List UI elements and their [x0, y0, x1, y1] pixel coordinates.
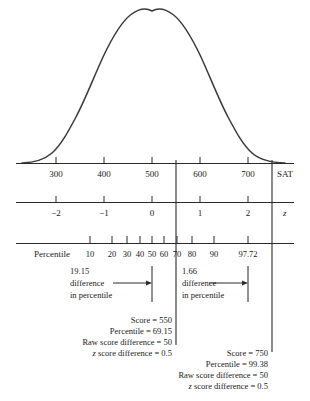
percentile-tick-label-80: 80	[188, 249, 197, 259]
percentile-tick-label-40: 40	[136, 249, 145, 259]
right-callout-raw-difference: Raw score difference = 50	[96, 370, 268, 381]
left-callout-raw-difference: Raw score difference = 50	[0, 337, 172, 348]
z-tick-label-neg2: −2	[51, 208, 61, 218]
percentile-axis-label: Percentile	[34, 249, 70, 259]
left-callout-score: Score = 550	[0, 315, 172, 326]
percentile-tick-label-97-72: 97.72	[238, 249, 257, 259]
right-callout-z-text: score difference = 0.5	[192, 381, 268, 391]
left-difference-value: 19.15	[70, 266, 89, 277]
z-tick-label-neg1: −1	[99, 208, 109, 218]
left-callout-percentile: Percentile = 69.15	[0, 326, 172, 337]
percentile-tick-label-10: 10	[86, 249, 95, 259]
sat-axis-ticks	[56, 157, 248, 164]
z-tick-label-2: 2	[246, 208, 251, 218]
percentile-tick-label-50: 50	[148, 249, 157, 259]
left-difference-unit: in percentile	[70, 290, 112, 301]
percentile-tick-label-60: 60	[160, 249, 169, 259]
sat-tick-label-600: 600	[193, 169, 207, 179]
right-callout-score: Score = 750	[96, 348, 268, 359]
right-callout-percentile: Percentile = 99.38	[96, 359, 268, 370]
percentile-tick-label-20: 20	[108, 249, 117, 259]
z-axis-ticks	[56, 196, 248, 203]
right-difference-word: difference	[182, 278, 216, 289]
right-difference-value: 1.66	[182, 266, 197, 277]
right-difference-unit: in percentile	[182, 290, 224, 301]
normal-curve	[22, 9, 285, 163]
z-tick-label-1: 1	[198, 208, 203, 218]
percentile-tick-label-30: 30	[123, 249, 132, 259]
percentile-axis-ticks	[90, 236, 248, 244]
sat-tick-label-700: 700	[241, 169, 255, 179]
percentile-tick-label-90: 90	[210, 249, 219, 259]
percentile-tick-label-70: 70	[173, 249, 182, 259]
sat-axis-label: SAT	[277, 169, 293, 179]
figure-container: 300 400 500 600 700 SAT −2 −1 0 1 2 z Pe…	[0, 0, 310, 401]
z-axis-label: z	[283, 208, 287, 218]
z-tick-label-0: 0	[150, 208, 155, 218]
arrow-left-difference	[113, 280, 152, 285]
right-callout-z-difference: z score difference = 0.5	[96, 381, 268, 392]
sat-tick-label-500: 500	[145, 169, 159, 179]
sat-tick-label-300: 300	[49, 169, 63, 179]
sat-tick-label-400: 400	[97, 169, 111, 179]
left-difference-word: difference	[70, 278, 104, 289]
